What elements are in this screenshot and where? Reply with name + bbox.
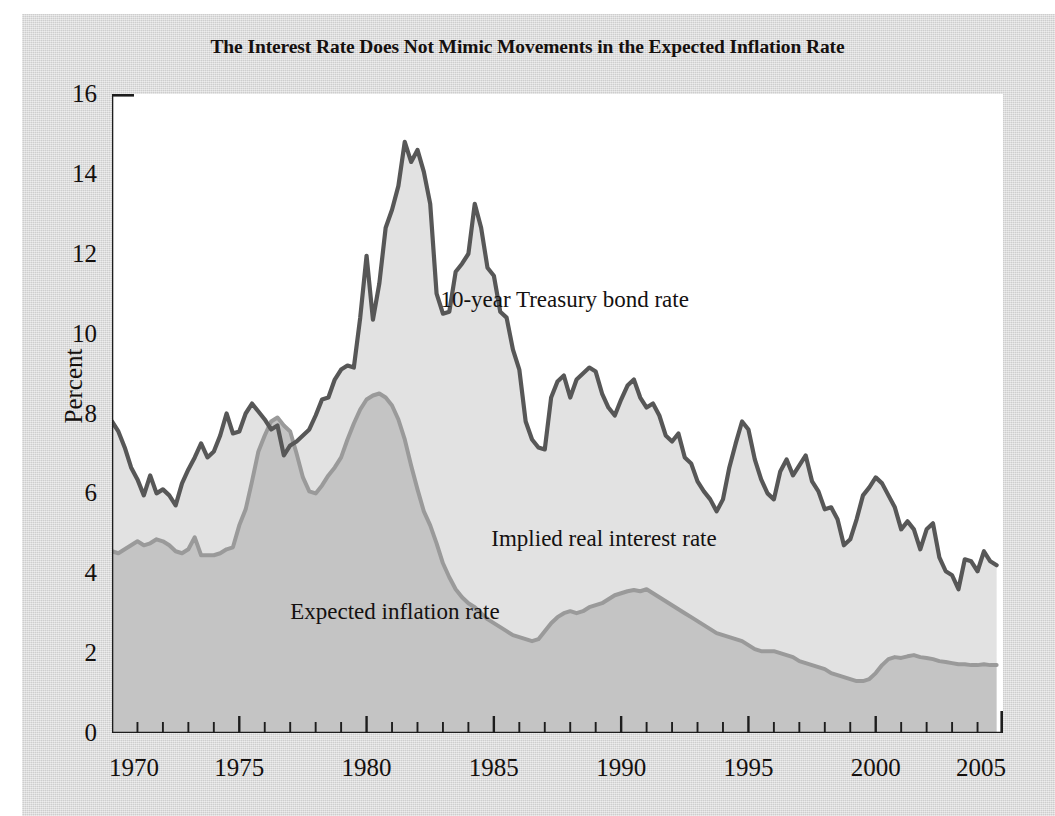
- x-tick-label-2005: 2005: [956, 754, 1006, 782]
- y-tick-label-14: 14: [72, 160, 97, 188]
- x-tick-label-2000: 2000: [851, 754, 901, 782]
- y-tick-label-12: 12: [72, 240, 97, 268]
- y-tick-label-0: 0: [85, 719, 98, 747]
- x-tick-label-1980: 1980: [342, 754, 392, 782]
- chart-canvas: [112, 94, 1003, 733]
- y-tick-label-4: 4: [85, 559, 98, 587]
- x-tick-label-1975: 1975: [214, 754, 264, 782]
- x-tick-label-1970: 1970: [109, 754, 159, 782]
- annotation-implied-real-interest-rate: Implied real interest rate: [491, 526, 716, 552]
- y-tick-label-2: 2: [85, 639, 98, 667]
- chart-title: The Interest Rate Does Not Mimic Movemen…: [0, 36, 1055, 58]
- x-tick-label-1990: 1990: [596, 754, 646, 782]
- y-tick-label-16: 16: [72, 80, 97, 108]
- chart-figure: The Interest Rate Does Not Mimic Movemen…: [0, 0, 1055, 816]
- y-tick-label-6: 6: [85, 479, 98, 507]
- y-tick-label-8: 8: [85, 400, 98, 428]
- annotation-10-year-treasury-bond-rate: 10-year Treasury bond rate: [440, 287, 688, 313]
- plot-area: 0246810121416197019751980198519901995200…: [112, 94, 1003, 733]
- y-tick-label-10: 10: [72, 320, 97, 348]
- x-tick-label-1995: 1995: [723, 754, 773, 782]
- annotation-expected-inflation-rate: Expected inflation rate: [290, 599, 499, 625]
- x-tick-label-1985: 1985: [469, 754, 519, 782]
